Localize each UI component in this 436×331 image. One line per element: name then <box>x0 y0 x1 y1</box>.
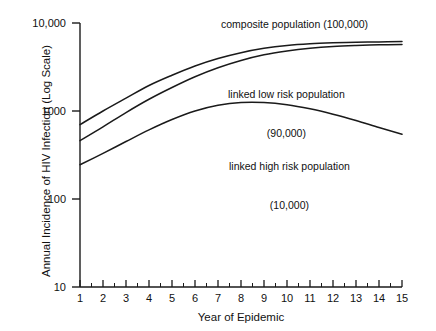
x-tick-label-15: 15 <box>396 292 408 304</box>
x-tick-label-1: 1 <box>77 292 83 304</box>
series-annotation-high-risk-line2: (10,000) <box>229 199 350 212</box>
x-tick-label-11: 11 <box>304 292 315 304</box>
y-axis-ticks <box>72 23 80 287</box>
y-tick-label-1000: 1000 <box>8 105 66 117</box>
series-annotation-composite: composite population (100,000) <box>221 18 368 31</box>
y-tick-label-10: 10 <box>8 281 66 293</box>
x-tick-label-9: 9 <box>261 292 267 304</box>
x-tick-label-4: 4 <box>146 292 152 304</box>
series-annotation-high-risk: linked high risk population (10,000) <box>229 134 350 238</box>
x-tick-label-3: 3 <box>123 292 129 304</box>
y-tick-label-10000: 10,000 <box>8 17 66 29</box>
series-annotation-high-risk-line1: linked high risk population <box>229 160 350 173</box>
y-axis-title: Annual Incidence of HIV Infection (Log S… <box>40 21 52 301</box>
x-tick-label-2: 2 <box>100 292 106 304</box>
x-tick-label-7: 7 <box>215 292 221 304</box>
x-tick-label-14: 14 <box>373 292 385 304</box>
x-axis-title: Year of Epidemic <box>80 311 402 323</box>
series-annotation-low-risk-line1: linked low risk population <box>228 88 345 101</box>
chart-figure: 10,000 1000 100 10 1 2 3 4 5 6 7 8 9 10 … <box>0 0 436 331</box>
x-tick-label-13: 13 <box>350 292 362 304</box>
y-tick-label-100: 100 <box>8 193 66 205</box>
x-tick-label-6: 6 <box>192 292 198 304</box>
x-tick-label-12: 12 <box>327 292 339 304</box>
x-tick-label-8: 8 <box>238 292 244 304</box>
x-tick-label-5: 5 <box>169 292 175 304</box>
x-tick-label-10: 10 <box>281 292 293 304</box>
x-axis-ticks <box>80 280 402 287</box>
